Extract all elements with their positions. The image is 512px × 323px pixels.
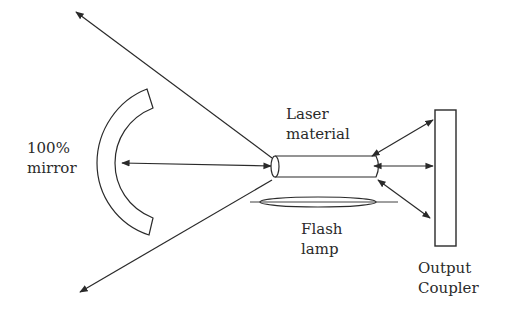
output-coupler-label: Output Coupler (418, 258, 479, 298)
mirror-rod-double-arrow (122, 163, 271, 166)
laser-rod (271, 156, 379, 177)
mirror-label-line2: mirror (27, 158, 77, 178)
flash-lamp-shape (250, 197, 398, 207)
laser-material-label-line2: material (286, 124, 350, 144)
rod-coupler-upper-arrow (372, 120, 433, 156)
mirror-label: 100% mirror (27, 138, 77, 178)
laser-material-label-line1: Laser (286, 104, 350, 124)
output-coupler-shape (435, 110, 456, 246)
flash-lamp-label: Flash lamp (301, 219, 343, 259)
full-mirror-shape (97, 89, 153, 235)
rod-coupler-lower-arrow (378, 180, 430, 218)
laser-material-label: Laser material (286, 104, 350, 144)
flash-lamp-label-line2: lamp (301, 239, 343, 259)
flash-lamp-label-line1: Flash (301, 219, 343, 239)
output-coupler-label-line1: Output (418, 258, 479, 278)
output-coupler-label-line2: Coupler (418, 278, 479, 298)
mirror-label-line1: 100% (27, 138, 77, 158)
